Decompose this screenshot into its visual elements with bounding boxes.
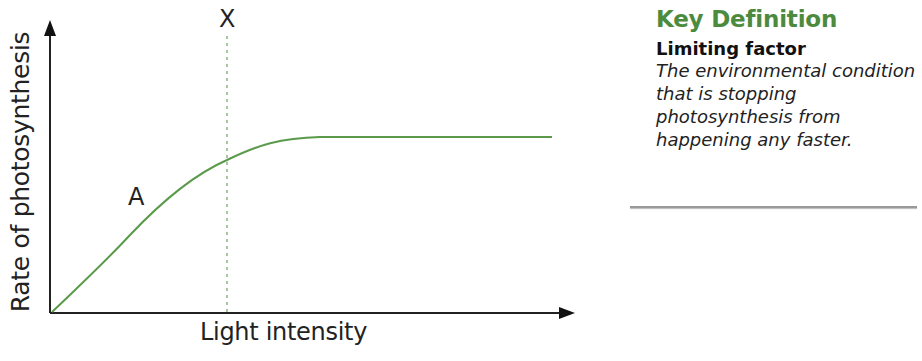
point-x-label: X — [219, 5, 235, 33]
key-definition-divider — [630, 206, 917, 208]
y-axis-label: Rate of photosynthesis — [0, 0, 40, 361]
rate-curve — [52, 137, 552, 312]
photosynthesis-graph — [0, 0, 600, 361]
x-axis-label: Light intensity — [200, 318, 367, 346]
key-definition-heading: Key Definition — [656, 6, 917, 32]
x-axis-arrow-icon — [559, 307, 575, 319]
key-definition-text: The environmental condition that is stop… — [656, 59, 922, 151]
y-axis-arrow-icon — [44, 20, 56, 36]
key-definition-box: Key Definition Limiting factor The envir… — [630, 6, 917, 151]
key-definition-term: Limiting factor — [656, 38, 917, 59]
point-a-label: A — [128, 183, 144, 211]
y-axis-label-text: Rate of photosynthesis — [6, 32, 35, 313]
